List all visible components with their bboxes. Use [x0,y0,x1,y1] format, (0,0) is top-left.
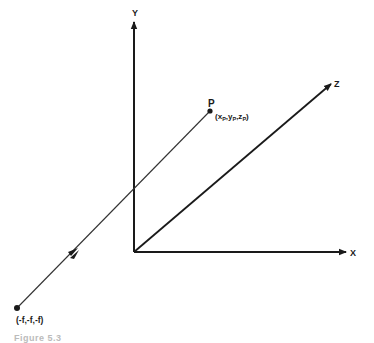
figure-caption: Figure 5.3 [14,333,62,343]
x-axis-label: X [350,248,356,258]
z-axis-label: Z [334,79,340,89]
center-point-label: (-f,-f,-f) [16,315,44,325]
point-p-coords: (xP,yP,zP) [215,112,249,122]
point-p-dot [207,108,212,113]
z-axis [134,84,331,252]
center-point-dot [14,305,20,311]
projection-ray [17,111,210,308]
y-axis-label: Y [132,8,138,18]
point-p-label: P [208,98,215,109]
